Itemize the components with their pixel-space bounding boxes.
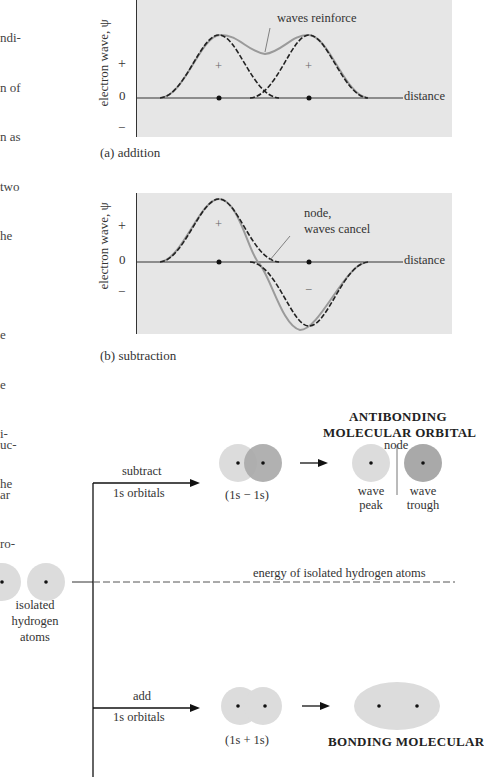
- subtract-orbitals-text: 1s orbitals: [113, 486, 165, 500]
- nucleus-dot: [217, 260, 222, 265]
- add-orbitals-text: 1s orbitals: [113, 710, 165, 724]
- figure-caption: (a) addition: [100, 145, 160, 161]
- nucleus-dot: [307, 96, 312, 101]
- bonding-orbital: [354, 682, 440, 730]
- nucleus-dot: [217, 96, 222, 101]
- figure-addition: electron wave, ψ + 0 − + + distance wave…: [0, 0, 470, 170]
- orbital-right: [244, 687, 282, 725]
- y-tick-zero: 0: [119, 252, 126, 268]
- add-sub-label: 1s orbitals: [113, 710, 165, 725]
- y-axis-label: electron wave, ψ: [96, 8, 112, 118]
- label-line: wave: [405, 484, 441, 498]
- figure-subtraction: electron wave, ψ + 0 − + − distance node…: [0, 180, 470, 380]
- y-tick-minus: −: [118, 284, 125, 300]
- annotation-label: node,: [304, 206, 331, 221]
- minus-combination-label: (1s − 1s): [225, 488, 269, 503]
- subtraction-plot: [0, 180, 470, 350]
- label-line: hydrogen: [0, 613, 70, 629]
- region-sign: −: [305, 283, 312, 298]
- figure-caption: (b) subtraction: [100, 348, 176, 364]
- y-axis-label: electron wave, ψ: [96, 191, 112, 301]
- y-tick-minus: −: [118, 120, 125, 136]
- subtract-sub-label: 1s orbitals: [113, 486, 165, 501]
- label-line: wave: [357, 484, 385, 498]
- region-sign: +: [215, 59, 222, 74]
- title-line: ANTIBONDING: [323, 409, 473, 425]
- y-tick-plus: +: [118, 218, 126, 234]
- orbital-svg: [0, 400, 470, 777]
- nucleus-dot: [307, 260, 312, 265]
- label-line: isolated: [0, 597, 70, 613]
- region-sign: +: [215, 217, 222, 232]
- plus-combination-label: (1s + 1s): [225, 733, 269, 748]
- annotation-label: waves reinforce: [277, 11, 356, 26]
- x-axis-label: distance: [404, 89, 445, 104]
- energy-level-label: energy of isolated hydrogen atoms: [253, 566, 426, 581]
- node-label: node: [384, 438, 408, 453]
- y-tick-zero: 0: [119, 88, 126, 104]
- addition-plot: [0, 0, 470, 170]
- region-sign: +: [305, 59, 312, 74]
- label-line: trough: [405, 498, 441, 512]
- antibonding-title: ANTIBONDING MOLECULAR ORBITAL: [323, 409, 473, 441]
- y-tick-plus: +: [118, 56, 126, 72]
- x-axis-label: distance: [404, 253, 445, 268]
- label-line: peak: [357, 498, 385, 512]
- wave-trough-label: wave trough: [405, 484, 441, 512]
- label-line: atoms: [0, 629, 70, 645]
- orbital-diagram: isolated hydrogen atoms subtract 1s orbi…: [0, 400, 470, 777]
- wave-peak-label: wave peak: [357, 484, 385, 512]
- isolated-atoms-label: isolated hydrogen atoms: [0, 597, 70, 645]
- annotation-label: waves cancel: [304, 222, 370, 237]
- bonding-title: BONDING MOLECULAR: [328, 734, 484, 750]
- add-label: add: [133, 689, 151, 704]
- subtract-label: subtract: [122, 464, 162, 479]
